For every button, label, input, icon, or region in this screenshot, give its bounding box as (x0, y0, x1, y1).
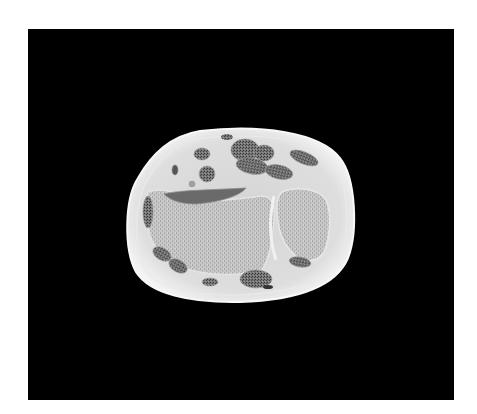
vessel (172, 165, 178, 175)
specimen-image (0, 0, 477, 414)
vessel-cluster (188, 180, 196, 188)
tendon-bundle (143, 196, 153, 228)
tendon-bundle (194, 148, 210, 160)
dark-spot (263, 285, 273, 289)
tendon-bundle (254, 145, 274, 161)
tendon-bundle (221, 134, 233, 140)
tendon-bundle (202, 278, 218, 286)
tendon-bundle (199, 166, 215, 182)
